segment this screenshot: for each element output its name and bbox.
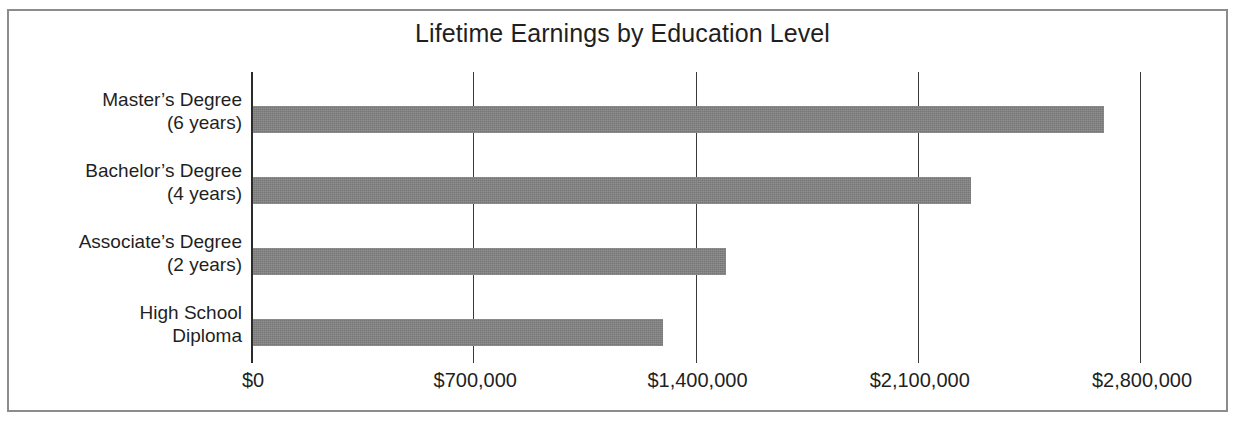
- category-label-line-2: (2 years): [0, 253, 242, 276]
- bar-high-school-diploma: [253, 319, 663, 346]
- category-label-line-1: Master’s Degree: [0, 88, 242, 111]
- bar-associates-degree: [253, 248, 726, 275]
- bar-bachelors-degree: [253, 177, 971, 204]
- xtick-label-2800000: $2,800,000: [1092, 368, 1192, 392]
- plot-area: Master’s Degree (6 years) Bachelor’s Deg…: [0, 0, 1241, 421]
- category-label-line-1: Associate’s Degree: [0, 230, 242, 253]
- category-label-masters-degree: Master’s Degree (6 years): [0, 88, 242, 134]
- xtick-label-1400000: $1,400,000: [647, 368, 747, 392]
- category-label-line-2: (4 years): [0, 182, 242, 205]
- category-label-line-2: (6 years): [0, 111, 242, 134]
- gridline-2800000: [1140, 72, 1141, 363]
- xtick-label-700000: $700,000: [434, 368, 517, 392]
- xtick-label-0: $0: [242, 368, 264, 392]
- xtick-label-2100000: $2,100,000: [870, 368, 970, 392]
- bar-masters-degree: [253, 106, 1104, 133]
- chart-figure: Lifetime Earnings by Education Level Mas…: [0, 0, 1241, 421]
- category-label-high-school-diploma: High School Diploma: [0, 301, 242, 347]
- category-label-line-1: High School: [0, 301, 242, 324]
- category-label-bachelors-degree: Bachelor’s Degree (4 years): [0, 159, 242, 205]
- category-label-line-2: Diploma: [0, 324, 242, 347]
- category-label-line-1: Bachelor’s Degree: [0, 159, 242, 182]
- category-label-associates-degree: Associate’s Degree (2 years): [0, 230, 242, 276]
